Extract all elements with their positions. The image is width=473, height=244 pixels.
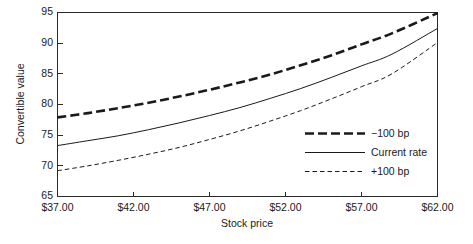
series-line-minus-100-bp [58,13,438,117]
chart-svg: 95 90 85 80 75 70 65 $37.00 $42.00 $47.0… [0,0,473,244]
y-tick-label: 80 [41,97,53,109]
y-tick-labels: 95 90 85 80 75 70 65 [41,5,53,201]
y-tick-label: 85 [41,67,53,79]
y-tick-label: 90 [41,36,53,48]
x-tick-label: $47.00 [193,201,225,213]
y-axis-title: Convertible value [14,63,26,144]
x-tick-label: $62.00 [421,201,453,213]
x-tick-label: $42.00 [117,201,149,213]
x-axis-ticks [58,192,438,197]
x-tick-label: $57.00 [345,201,377,213]
x-axis-title: Stock price [221,217,273,229]
y-tick-label: 65 [41,189,53,201]
x-tick-label: $37.00 [41,201,73,213]
chart-figure: 95 90 85 80 75 70 65 $37.00 $42.00 $47.0… [0,0,473,244]
legend: −100 bp Current rate +100 bp [305,127,427,177]
legend-label-minus-100-bp: −100 bp [371,127,409,139]
legend-label-current-rate: Current rate [371,146,427,158]
y-tick-label: 95 [41,5,53,17]
y-axis-ticks [58,13,63,197]
x-tick-label: $52.00 [269,201,301,213]
y-tick-label: 75 [41,128,53,140]
y-tick-label: 70 [41,159,53,171]
legend-label-plus-100-bp: +100 bp [371,165,409,177]
x-tick-labels: $37.00 $42.00 $47.00 $52.00 $57.00 $62.0… [41,201,453,213]
